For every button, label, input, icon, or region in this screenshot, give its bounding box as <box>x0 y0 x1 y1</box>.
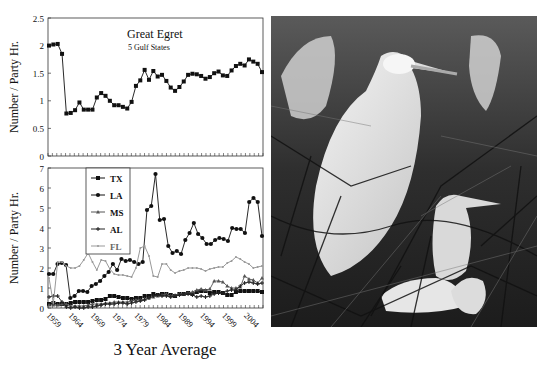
svg-text:6: 6 <box>40 184 45 194</box>
svg-text:3: 3 <box>40 244 45 254</box>
svg-text:1: 1 <box>40 284 45 294</box>
top-x-axis <box>48 153 263 156</box>
top-chart: 00.511.522.5 Great Egret 5 Gulf States N… <box>7 14 264 162</box>
svg-text:1: 1 <box>40 96 45 106</box>
top-series <box>47 42 264 116</box>
svg-text:4: 4 <box>40 224 45 234</box>
svg-text:MS: MS <box>110 208 124 218</box>
svg-text:2: 2 <box>40 41 45 51</box>
top-chart-title: Great Egret <box>127 27 183 41</box>
svg-text:0: 0 <box>40 304 45 314</box>
svg-text:2004: 2004 <box>242 310 262 330</box>
svg-text:5: 5 <box>40 204 45 214</box>
svg-text:TX: TX <box>110 174 123 184</box>
bottom-x-axis: 1959196419691974197919841989199419992004 <box>45 305 263 330</box>
svg-text:1994: 1994 <box>198 310 218 330</box>
svg-text:0.5: 0.5 <box>33 124 45 134</box>
great-egret-photo <box>271 16 537 327</box>
svg-text:FL: FL <box>110 242 122 252</box>
svg-text:1974: 1974 <box>110 310 130 330</box>
bottom-series <box>47 172 264 310</box>
top-chart-subtitle: 5 Gulf States <box>128 43 170 52</box>
photo-illustration <box>271 16 537 327</box>
svg-text:2.5: 2.5 <box>33 14 45 24</box>
svg-text:1.5: 1.5 <box>33 69 45 79</box>
x-axis-title: 3 Year Average <box>60 340 270 360</box>
series-la <box>47 172 264 300</box>
svg-text:7: 7 <box>40 164 45 174</box>
bottom-plot-frame <box>48 168 263 308</box>
bottom-chart: 01234567 1959196419691974197919841989199… <box>7 164 264 330</box>
charts-canvas: 00.511.522.5 Great Egret 5 Gulf States N… <box>0 0 271 340</box>
svg-text:1979: 1979 <box>132 310 151 329</box>
svg-text:LA: LA <box>110 191 123 201</box>
svg-text:1984: 1984 <box>154 310 174 330</box>
svg-text:2: 2 <box>40 264 45 274</box>
legend: TXLAMSALFL <box>86 168 130 254</box>
series-5-gulf-states <box>47 42 264 116</box>
svg-text:1964: 1964 <box>67 310 87 330</box>
svg-text:1959: 1959 <box>45 310 64 329</box>
bottom-y-axis-label: Number / Party Hr. <box>7 192 21 284</box>
svg-text:1999: 1999 <box>220 310 239 329</box>
svg-text:1989: 1989 <box>176 310 195 329</box>
svg-text:AL: AL <box>110 225 123 235</box>
bottom-y-axis: 01234567 <box>40 164 52 314</box>
svg-text:1969: 1969 <box>88 310 107 329</box>
svg-text:0: 0 <box>40 152 45 162</box>
top-y-axis-label: Number / Party Hr. <box>7 41 21 133</box>
